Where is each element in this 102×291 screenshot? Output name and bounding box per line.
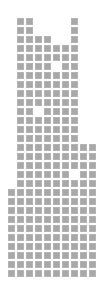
grid-cell — [26, 198, 33, 205]
grid-cell — [8, 243, 15, 250]
grid-cell — [71, 108, 78, 115]
grid-cell — [35, 162, 42, 169]
grid-cell — [26, 261, 33, 268]
grid-cell — [17, 153, 24, 160]
grid-cell — [71, 126, 78, 133]
grid-cell — [80, 270, 87, 277]
grid-cell — [62, 72, 69, 79]
grid-cell — [89, 198, 96, 205]
grid-cell — [53, 54, 60, 61]
grid-cell — [44, 189, 51, 196]
grid-cell — [53, 180, 60, 187]
square-grid — [0, 0, 102, 291]
grid-cell — [62, 108, 69, 115]
grid-cell — [44, 99, 51, 106]
grid-cell — [44, 162, 51, 169]
grid-cell — [17, 252, 24, 259]
grid-cell — [44, 207, 51, 214]
grid-cell — [62, 81, 69, 88]
grid-cell — [17, 81, 24, 88]
grid-cell — [62, 117, 69, 124]
grid-cell — [53, 189, 60, 196]
grid-cell — [44, 153, 51, 160]
grid-cell — [53, 225, 60, 232]
grid-cell — [89, 153, 96, 160]
grid-cell — [53, 261, 60, 268]
grid-cell — [62, 270, 69, 277]
grid-cell — [80, 252, 87, 259]
grid-cell — [62, 45, 69, 52]
grid-cell — [44, 234, 51, 241]
grid-cell — [71, 36, 78, 43]
grid-cell — [35, 252, 42, 259]
grid-cell — [17, 261, 24, 268]
grid-cell — [35, 72, 42, 79]
grid-cell — [53, 207, 60, 214]
grid-cell — [26, 45, 33, 52]
grid-cell — [80, 144, 87, 151]
grid-cell — [53, 81, 60, 88]
grid-cell — [26, 153, 33, 160]
grid-cell — [35, 144, 42, 151]
grid-cell — [8, 252, 15, 259]
grid-cell — [35, 225, 42, 232]
grid-cell — [80, 153, 87, 160]
grid-cell — [53, 198, 60, 205]
grid-cell — [35, 189, 42, 196]
grid-cell — [17, 45, 24, 52]
grid-cell — [71, 234, 78, 241]
grid-cell — [80, 225, 87, 232]
grid-cell — [53, 45, 60, 52]
grid-cell — [62, 180, 69, 187]
grid-cell — [80, 198, 87, 205]
grid-cell — [53, 72, 60, 79]
grid-cell — [35, 198, 42, 205]
grid-cell — [80, 243, 87, 250]
grid-cell — [35, 180, 42, 187]
grid-cell — [71, 225, 78, 232]
grid-cell — [44, 126, 51, 133]
grid-cell — [44, 144, 51, 151]
grid-cell — [62, 243, 69, 250]
grid-cell — [44, 270, 51, 277]
grid-cell — [35, 261, 42, 268]
grid-cell — [35, 36, 42, 43]
grid-cell — [71, 162, 78, 169]
grid-cell — [80, 216, 87, 223]
grid-cell — [44, 36, 51, 43]
grid-cell — [53, 234, 60, 241]
grid-cell — [35, 234, 42, 241]
grid-cell — [62, 99, 69, 106]
grid-cell — [62, 189, 69, 196]
grid-cell — [71, 90, 78, 97]
grid-cell — [17, 243, 24, 250]
grid-cell — [44, 171, 51, 178]
grid-cell — [17, 198, 24, 205]
grid-cell — [26, 162, 33, 169]
grid-cell — [53, 108, 60, 115]
grid-cell — [53, 99, 60, 106]
grid-cell — [89, 243, 96, 250]
grid-cell — [71, 27, 78, 34]
grid-cell — [17, 108, 24, 115]
grid-cell — [80, 261, 87, 268]
grid-cell — [62, 144, 69, 151]
grid-cell — [71, 216, 78, 223]
grid-cell — [35, 216, 42, 223]
grid-cell — [17, 54, 24, 61]
grid-cell — [89, 234, 96, 241]
grid-cell — [71, 117, 78, 124]
grid-cell — [62, 126, 69, 133]
grid-cell — [35, 54, 42, 61]
grid-cell — [35, 117, 42, 124]
grid-cell — [26, 63, 33, 70]
grid-cell — [89, 207, 96, 214]
grid-cell — [71, 63, 78, 70]
grid-cell — [26, 243, 33, 250]
grid-cell — [80, 189, 87, 196]
grid-cell — [80, 171, 87, 178]
grid-cell — [44, 135, 51, 142]
grid-cell — [26, 171, 33, 178]
grid-cell — [71, 135, 78, 142]
grid-cell — [26, 117, 33, 124]
